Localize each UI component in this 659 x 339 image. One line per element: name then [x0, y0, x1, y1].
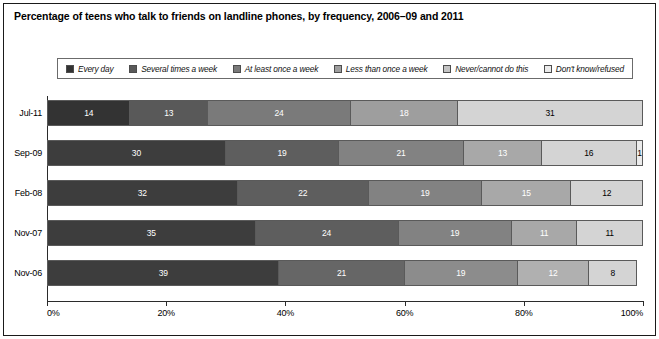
- bar-segment[interactable]: 8: [589, 260, 637, 286]
- legend-item: Less than once a week: [334, 64, 428, 74]
- x-axis-tick-label: 20%: [157, 308, 174, 318]
- bar-segment[interactable]: 12: [571, 180, 643, 206]
- bar-segment-value: 11: [540, 229, 548, 238]
- bar-segment[interactable]: 13: [464, 140, 541, 166]
- bar-row-label: Feb-08: [0, 180, 42, 206]
- bar-row-label: Nov-07: [0, 220, 42, 246]
- bar-segment-value: 12: [602, 189, 611, 198]
- legend-item: At least once a week: [233, 64, 319, 74]
- bar-segment[interactable]: 11: [512, 220, 578, 246]
- bar-segment[interactable]: 19: [399, 220, 512, 246]
- bar-row-label: Jul-11: [0, 100, 42, 126]
- bar-segment-value: 21: [337, 269, 346, 278]
- legend-swatch-icon: [66, 65, 74, 73]
- bar-segment-value: 24: [322, 229, 331, 238]
- legend-item-label: Several times a week: [141, 64, 217, 74]
- bar-segment[interactable]: 30: [47, 140, 226, 166]
- bar-segment[interactable]: 35: [47, 220, 256, 246]
- legend-swatch-icon: [334, 65, 342, 73]
- bar-segment[interactable]: 21: [339, 140, 464, 166]
- page-title: Percentage of teens who talk to friends …: [14, 10, 634, 23]
- bar-segment-value: 19: [450, 229, 459, 238]
- bar-segment-value: 19: [420, 189, 429, 198]
- legend-item-label: Less than once a week: [346, 64, 428, 74]
- bar-row-label: Nov-06: [0, 260, 42, 286]
- bar-segment-value: 21: [397, 149, 406, 158]
- legend-item-label: Every day: [78, 64, 114, 74]
- bar-segment[interactable]: 14: [47, 100, 130, 126]
- bar-segment-value: 15: [522, 189, 531, 198]
- chart-figure: Percentage of teens who talk to friends …: [0, 0, 659, 339]
- x-axis-tick-label: 80%: [515, 308, 532, 318]
- bar-segment-value: 12: [549, 269, 558, 278]
- bar-track: 3524191111: [47, 220, 643, 246]
- legend-item: Every day: [66, 64, 114, 74]
- bar-segment-value: 18: [400, 109, 409, 118]
- x-axis-tick-label: 100%: [621, 308, 643, 318]
- bar-track: 1413241831: [47, 100, 643, 126]
- x-axis-tick: [405, 301, 406, 306]
- bar-segment[interactable]: 12: [518, 260, 590, 286]
- bar-segment[interactable]: 32: [47, 180, 238, 206]
- bar-segment-value: 24: [274, 109, 283, 118]
- bar-segment-value: 35: [147, 229, 156, 238]
- bar-track: 392119128: [47, 260, 643, 286]
- bar-segment[interactable]: 22: [238, 180, 369, 206]
- bar-segment-value: 11: [605, 229, 613, 238]
- bar-segment[interactable]: 13: [130, 100, 207, 126]
- bar-row: Nov-073524191111: [0, 220, 659, 246]
- bar-segment-value: 22: [298, 189, 307, 198]
- bar-segment[interactable]: 16: [542, 140, 637, 166]
- x-axis-tick-label: 0%: [47, 308, 60, 318]
- bar-rows: Jul-111413241831Sep-0930192113161Feb-083…: [0, 96, 659, 301]
- x-axis-tick: [47, 301, 48, 306]
- bar-segment-value: 39: [159, 269, 168, 278]
- bar-segment-value: 13: [498, 149, 507, 158]
- bar-segment[interactable]: 31: [458, 100, 643, 126]
- legend-item-label: At least once a week: [245, 64, 319, 74]
- legend-item: Never/cannot do this: [443, 64, 528, 74]
- bar-segment[interactable]: 19: [226, 140, 339, 166]
- x-axis-tick: [166, 301, 167, 306]
- bar-segment[interactable]: 19: [369, 180, 482, 206]
- x-axis-tick: [524, 301, 525, 306]
- bar-segment[interactable]: 21: [279, 260, 404, 286]
- legend-swatch-icon: [544, 65, 552, 73]
- bar-row: Nov-06392119128: [0, 260, 659, 286]
- bar-segment-value: 30: [132, 149, 141, 158]
- bar-segment-value: 8: [610, 269, 615, 278]
- x-axis-line: [47, 301, 643, 302]
- plot-area: Jul-111413241831Sep-0930192113161Feb-083…: [0, 96, 659, 311]
- bar-segment-value: 32: [138, 189, 147, 198]
- bar-segment[interactable]: 1: [637, 140, 643, 166]
- bar-track: 30192113161: [47, 140, 643, 166]
- bar-track: 3222191512: [47, 180, 643, 206]
- legend-swatch-icon: [233, 65, 241, 73]
- x-axis-tick-label: 60%: [396, 308, 413, 318]
- bar-row: Jul-111413241831: [0, 100, 659, 126]
- bar-segment[interactable]: 24: [256, 220, 399, 246]
- x-axis-tick: [643, 301, 644, 306]
- bar-segment[interactable]: 39: [47, 260, 279, 286]
- bar-segment[interactable]: 15: [482, 180, 571, 206]
- legend-item-label: Don't know/refused: [556, 64, 624, 74]
- bar-row: Sep-0930192113161: [0, 140, 659, 166]
- bar-row-label: Sep-09: [0, 140, 42, 166]
- bar-segment[interactable]: 19: [405, 260, 518, 286]
- bar-segment[interactable]: 18: [351, 100, 458, 126]
- bar-segment-value: 14: [84, 109, 93, 118]
- bar-segment-value: 13: [164, 109, 173, 118]
- bar-segment-value: 19: [277, 149, 286, 158]
- bar-segment[interactable]: 24: [208, 100, 351, 126]
- x-axis-tick-label: 40%: [277, 308, 294, 318]
- legend-swatch-icon: [129, 65, 137, 73]
- bar-segment-value: 19: [456, 269, 465, 278]
- bar-segment[interactable]: 11: [577, 220, 643, 246]
- legend-item: Several times a week: [129, 64, 217, 74]
- legend-swatch-icon: [443, 65, 451, 73]
- legend-item-label: Never/cannot do this: [455, 64, 528, 74]
- bar-row: Feb-083222191512: [0, 180, 659, 206]
- bar-segment-value: 31: [546, 109, 555, 118]
- chart-legend: Every daySeveral times a weekAt least on…: [57, 58, 633, 79]
- bar-segment-value: 16: [584, 149, 593, 158]
